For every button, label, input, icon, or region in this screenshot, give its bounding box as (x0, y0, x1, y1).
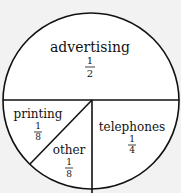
fraction-numerator: 1 (35, 121, 41, 131)
slice-label: printing (13, 107, 62, 121)
fraction-denominator: 2 (87, 68, 93, 79)
fraction-denominator: 4 (129, 145, 135, 155)
fraction-denominator: 8 (35, 132, 41, 142)
pie-chart: advertising 1 2 telephones 1 4 other 1 8… (0, 0, 181, 193)
slice-label: other (53, 143, 86, 157)
slice-label: advertising (50, 39, 130, 55)
fraction-numerator: 1 (87, 55, 93, 66)
slice-label: telephones (99, 120, 166, 134)
fraction-numerator: 1 (129, 134, 135, 144)
fraction-denominator: 8 (66, 169, 72, 179)
fraction-numerator: 1 (66, 157, 72, 167)
